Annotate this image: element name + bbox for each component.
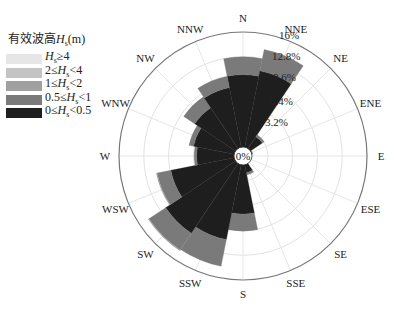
direction-label: NNW	[177, 23, 204, 35]
direction-label: W	[100, 150, 111, 162]
radial-tick-label: 12.8%	[272, 50, 300, 62]
petal-segment	[228, 213, 257, 231]
direction-label: NE	[333, 52, 348, 64]
direction-label: SE	[334, 248, 347, 260]
direction-label: SW	[137, 248, 154, 260]
direction-label: SSW	[179, 277, 202, 289]
direction-label: ENE	[360, 97, 382, 109]
wind-rose-chart: 0%3.2%6.4%9.6%12.8%16%NNNENEENEEESESESSE…	[0, 0, 394, 310]
direction-label: E	[378, 150, 385, 162]
radial-tick-label: 9.6%	[273, 71, 296, 83]
grid-spoke	[243, 156, 331, 244]
radial-tick-label: 0%	[236, 150, 251, 162]
direction-label: WNW	[101, 97, 130, 109]
direction-label: N	[239, 12, 247, 24]
direction-label: ESE	[361, 203, 381, 215]
direction-label: NW	[136, 52, 155, 64]
radial-tick-label: 3.2%	[265, 116, 288, 128]
direction-label: NNE	[285, 23, 308, 35]
direction-label: WSW	[102, 203, 130, 215]
radial-tick-label: 6.4%	[270, 95, 293, 107]
direction-label: SSE	[286, 277, 305, 289]
petal-segment	[224, 57, 263, 76]
direction-label: S	[240, 288, 246, 300]
